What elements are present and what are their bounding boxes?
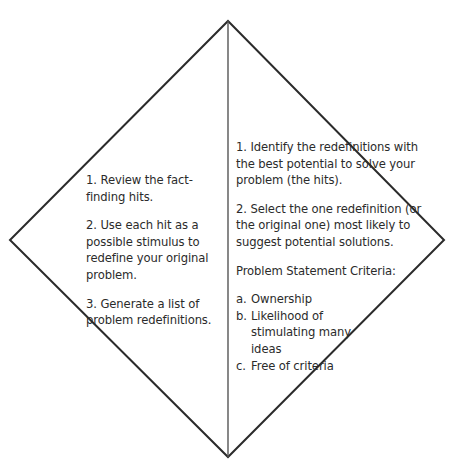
left-step-1: 1. Review the fact-finding hits. [86,172,226,205]
criteria-heading: Problem Statement Criteria: [236,263,426,280]
criteria-marker: b. [236,308,251,358]
criteria-marker: c. [236,358,251,375]
left-step-2: 2. Use each hit as a possible stimulus t… [86,217,226,283]
criteria-item: a. Ownership [236,291,426,308]
right-step-1: 1. Identify the redefinitions with the b… [236,139,426,189]
left-panel-diverge: 1. Review the fact-finding hits. 2. Use … [86,172,226,341]
criteria-item: c. Free of criteria [236,358,426,375]
left-step-3: 3. Generate a list of problem redefiniti… [86,296,226,329]
criteria-text: Free of criteria [251,358,361,375]
criteria-text: Likelihood of stimulating many ideas [251,308,361,358]
criteria-marker: a. [236,291,251,308]
right-panel-converge: 1. Identify the redefinitions with the b… [236,139,426,374]
criteria-text: Ownership [251,291,361,308]
criteria-list: a. Ownership b. Likelihood of stimulatin… [236,291,426,374]
criteria-item: b. Likelihood of stimulating many ideas [236,308,426,358]
right-step-2: 2. Select the one redefinition (or the o… [236,201,426,251]
